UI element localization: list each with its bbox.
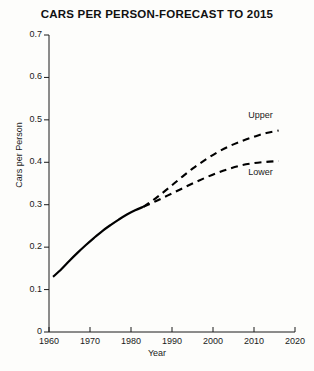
- x-tick-label: 2000: [193, 336, 233, 346]
- series-label-lower: Lower: [248, 167, 273, 177]
- axes-group: [44, 35, 295, 332]
- y-tick-label: 0.2: [8, 241, 42, 251]
- y-tick-label: 0.6: [8, 71, 42, 81]
- x-tick-label: 1990: [152, 336, 192, 346]
- x-tick-label: 2020: [275, 336, 314, 346]
- y-axis-title: Cars per Person: [14, 100, 24, 210]
- y-tick-label: 0.7: [8, 29, 42, 39]
- data-series-group: [53, 130, 279, 276]
- series-label-upper: Upper: [248, 110, 273, 120]
- chart-page: CARS PER PERSON-FORECAST TO 2015 00.10.2…: [0, 0, 314, 371]
- y-tick-label: 0: [8, 326, 42, 336]
- x-tick-label: 1960: [29, 336, 69, 346]
- x-tick-label: 1970: [70, 336, 110, 346]
- x-axis-title: Year: [0, 348, 314, 358]
- x-tick-label: 2010: [234, 336, 274, 346]
- series-line-historical: [53, 207, 143, 277]
- x-tick-label: 1980: [111, 336, 151, 346]
- y-tick-label: 0.1: [8, 284, 42, 294]
- chart-plot-area: [0, 0, 314, 371]
